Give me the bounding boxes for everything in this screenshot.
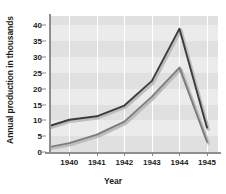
y-tick-label: 15 [33, 100, 42, 109]
y-axis-title: Annual production in thousands [0, 0, 20, 160]
y-tick-mark [42, 88, 46, 89]
data-lines [50, 16, 218, 152]
y-tick-mark [42, 25, 46, 26]
y-tick-label: 35 [33, 37, 42, 46]
x-tick-mark [207, 152, 208, 156]
x-tick-mark [179, 152, 180, 156]
x-tick-label: 1941 [88, 158, 106, 167]
x-tick-mark [152, 152, 153, 156]
y-tick-label: 20 [33, 84, 42, 93]
y-tick-label: 25 [33, 68, 42, 77]
y-tick-mark [42, 41, 46, 42]
series-line-lower-series [50, 68, 207, 147]
y-tick-mark [42, 120, 46, 121]
y-tick-mark [42, 57, 46, 58]
x-tick-mark [124, 152, 125, 156]
x-tick-mark [69, 152, 70, 156]
x-tick-label: 1945 [198, 158, 216, 167]
y-tick-mark [42, 72, 46, 73]
x-tick-label: 1940 [60, 158, 78, 167]
plot-area [50, 16, 218, 152]
x-axis-title: Year [0, 176, 226, 186]
x-tick-label: 1942 [115, 158, 133, 167]
x-tick-label: 1943 [143, 158, 161, 167]
x-tick-label: 1944 [171, 158, 189, 167]
y-tick-label: 30 [33, 53, 42, 62]
y-tick-label: 10 [33, 116, 42, 125]
line-chart-figure: Annual production in thousands 051015202… [0, 0, 226, 194]
y-axis-line [49, 14, 51, 154]
x-axis-ticks: 194019411942194319441945 [0, 152, 226, 194]
y-axis-title-text: Annual production in thousands [5, 16, 15, 144]
x-tick-mark [97, 152, 98, 156]
y-tick-mark [42, 136, 46, 137]
y-tick-label: 40 [33, 21, 42, 30]
y-tick-mark [42, 104, 46, 105]
